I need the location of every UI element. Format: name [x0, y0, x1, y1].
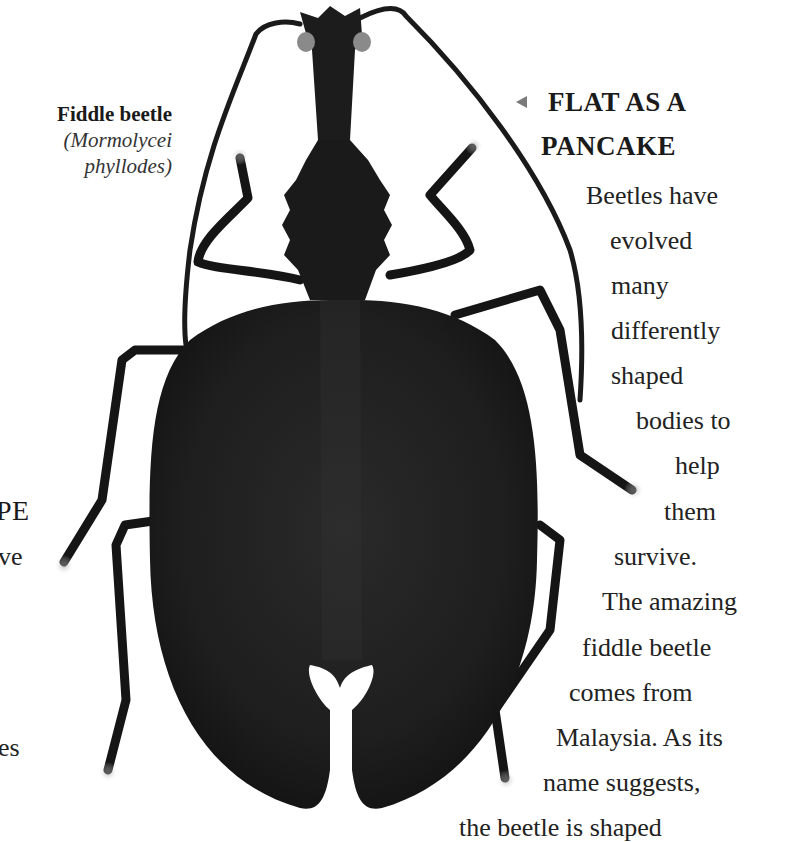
- caption-latin-name-line2: phyllodes): [0, 153, 172, 179]
- feature-body-line: evolved: [610, 225, 692, 256]
- feature-body-line: fiddle beetle: [582, 632, 711, 663]
- feature-heading-line1: FLAT AS A: [548, 85, 687, 119]
- feature-body-line: comes from: [569, 677, 692, 708]
- species-caption: Fiddle beetle (Mormolycei phyllodes): [0, 101, 172, 179]
- feature-body-line: shaped: [611, 360, 683, 391]
- feature-body-line: the beetle is shaped: [459, 812, 662, 842]
- left-heading-fragment: PE: [0, 494, 30, 528]
- feature-body-line: bodies to: [636, 405, 731, 436]
- caption-common-name: Fiddle beetle: [0, 101, 172, 127]
- left-body-fragment: ve: [0, 541, 23, 572]
- feature-body-line: The amazing: [602, 586, 737, 617]
- feature-body-line: name suggests,: [543, 767, 700, 798]
- feature-body-line: them: [664, 496, 716, 527]
- feature-body-line: Beetles have: [586, 180, 718, 211]
- feature-body-line: survive.: [614, 541, 697, 572]
- feature-body-line: help: [675, 450, 720, 481]
- feature-heading-line2: PANCAKE: [541, 129, 676, 163]
- feature-body-line: differently: [611, 315, 720, 346]
- feature-body-line: many: [611, 270, 669, 301]
- caption-latin-name-line1: (Mormolycei: [0, 127, 172, 153]
- feature-body-line: Malaysia. As its: [556, 722, 723, 753]
- beetle-head: [300, 6, 362, 140]
- left-pointer-icon: [516, 96, 527, 108]
- left-body-fragment: es: [0, 732, 20, 763]
